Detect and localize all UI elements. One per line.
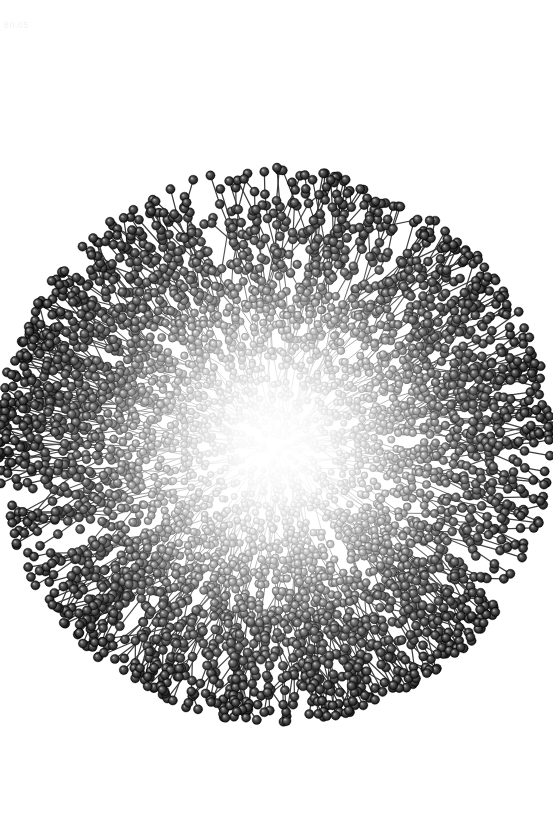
watermark-text: 80.05 bbox=[4, 20, 29, 30]
molecule-structure-canvas bbox=[0, 0, 553, 813]
figure-root: 80.05 bbox=[0, 0, 553, 813]
